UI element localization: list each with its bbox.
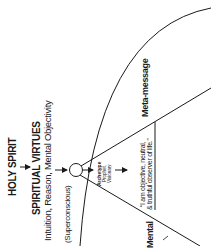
holy-spirit-label: HOLY SPIRIT xyxy=(8,138,18,196)
mental-label: Mental xyxy=(146,221,155,248)
mental-tick xyxy=(163,236,168,240)
spiritual-virtues-title: SPIRITUAL VIRTUES xyxy=(32,121,42,215)
virtues-list: Intuition, Reason, Mental Objectivity xyxy=(43,101,53,241)
quote-line2: & truthful observer of life.” xyxy=(146,139,153,210)
quote-line1: “I am objective, neutral, xyxy=(139,142,146,207)
meta-message-label: Meta-message xyxy=(141,59,150,117)
superconscious-node xyxy=(70,164,83,177)
superconscious-label: (Superconscious) xyxy=(64,186,72,243)
archetype-line2: Visionary xyxy=(108,165,113,183)
